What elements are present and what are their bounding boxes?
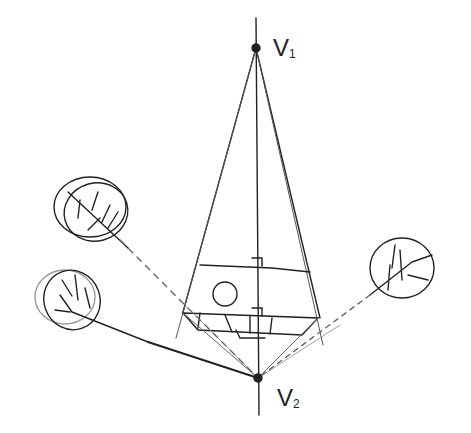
round-window — [213, 282, 237, 306]
perspective-sketch — [0, 0, 471, 433]
building-top-edge — [200, 265, 310, 272]
v2-label: V2 — [277, 384, 300, 412]
vanishing-point-1 — [252, 44, 260, 52]
vanishing-point-2 — [254, 374, 262, 382]
v1-label: V1 — [273, 34, 296, 62]
tree-right — [258, 238, 434, 378]
vertical-axis — [256, 18, 259, 415]
tree-lower-left — [35, 262, 258, 378]
